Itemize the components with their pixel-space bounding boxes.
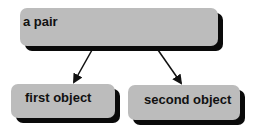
node-label: a pair	[23, 14, 58, 29]
node-a-pair: a pair	[20, 8, 218, 46]
arrow-to-second-object	[158, 50, 181, 83]
arrow-to-first-object	[74, 50, 92, 82]
node-first-object: first object	[11, 84, 115, 118]
node-label: second object	[144, 92, 231, 107]
node-second-object: second object	[128, 85, 240, 120]
node-label: first object	[25, 90, 91, 105]
